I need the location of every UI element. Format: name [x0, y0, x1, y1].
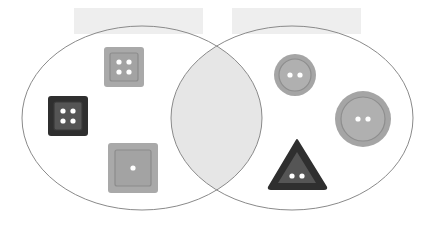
square-button-dark-4-holes-icon [48, 96, 88, 136]
square-button-light-4-holes-icon [104, 47, 144, 87]
venn-diagram [0, 0, 436, 228]
square-button-large-1-hole-icon [108, 143, 158, 193]
triangle-button-dark-2-holes-icon [269, 140, 327, 189]
round-button-large-2-holes-icon [335, 91, 391, 147]
round-button-small-2-holes-icon [274, 54, 316, 96]
